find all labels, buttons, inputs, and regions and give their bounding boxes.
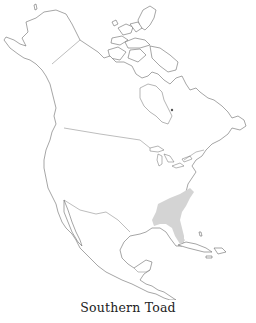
species-caption: Southern Toad	[0, 300, 256, 315]
hispaniola	[214, 248, 226, 254]
cuba	[178, 242, 212, 252]
island-dot	[171, 109, 173, 111]
north-america-outline-map	[0, 0, 256, 300]
caribbean-islands	[178, 232, 226, 258]
range-map	[0, 0, 256, 300]
